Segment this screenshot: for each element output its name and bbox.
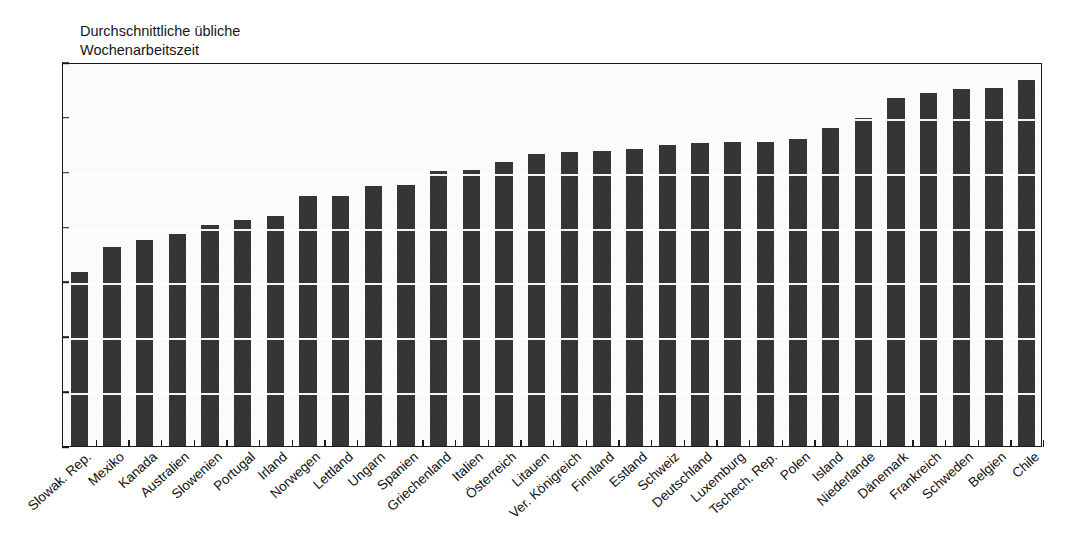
- x-axis-tick: [520, 440, 521, 447]
- x-axis-tick: [1043, 440, 1044, 447]
- y-axis-tick: [62, 282, 69, 284]
- y-axis-tick: [62, 446, 69, 448]
- y-axis-tick: [62, 391, 69, 393]
- bar: [561, 152, 579, 446]
- x-axis-tick: [716, 440, 717, 447]
- bar-series: [63, 64, 1041, 446]
- series-annotation: Durchschnittliche übliche Wochenarbeitsz…: [80, 22, 240, 60]
- bar: [332, 196, 350, 446]
- x-axis-tick: [618, 440, 619, 447]
- x-axis-tick: [324, 440, 325, 447]
- x-axis-tick: [357, 440, 358, 447]
- bar: [953, 89, 971, 446]
- x-axis-tick: [161, 440, 162, 447]
- y-axis-tick: [62, 227, 69, 229]
- plot-area: [62, 63, 1042, 447]
- bar: [430, 171, 448, 446]
- x-axis-tick: [128, 440, 129, 447]
- y-axis-tick: [62, 62, 69, 64]
- x-axis-tick: [292, 440, 293, 447]
- x-axis-tick: [847, 440, 848, 447]
- x-axis-tick: [259, 440, 260, 447]
- x-axis-tick: [1010, 440, 1011, 447]
- bar: [593, 151, 611, 446]
- bar: [365, 186, 383, 446]
- x-axis-tick: [880, 440, 881, 447]
- x-axis-tick: [96, 440, 97, 447]
- x-axis-tick: [194, 440, 195, 447]
- x-axis-tick: [651, 440, 652, 447]
- y-axis-tick: [62, 172, 69, 174]
- bar: [691, 143, 709, 446]
- bar: [855, 118, 873, 446]
- x-axis-label-text: Polen: [777, 449, 813, 483]
- x-axis-tick: [586, 440, 587, 447]
- chart-figure: Durchschnittliche übliche Wochenarbeitsz…: [0, 0, 1065, 554]
- bar: [789, 139, 807, 446]
- bar: [1018, 80, 1036, 446]
- x-axis-tick: [945, 440, 946, 447]
- bar: [659, 145, 677, 446]
- x-axis-tick: [684, 440, 685, 447]
- x-axis-tick: [455, 440, 456, 447]
- x-axis-tick: [782, 440, 783, 447]
- x-axis-label-text: Slowak. Rep.: [25, 449, 94, 513]
- bar: [887, 98, 905, 446]
- bar: [757, 142, 775, 446]
- bar: [528, 154, 546, 446]
- y-axis-tick: [62, 117, 69, 119]
- bar: [201, 225, 219, 446]
- bar: [103, 247, 121, 446]
- bar: [495, 162, 513, 446]
- bar: [985, 88, 1003, 446]
- bar: [71, 272, 89, 446]
- x-axis-tick: [814, 440, 815, 447]
- bar: [463, 170, 481, 446]
- y-axis-tick: [62, 336, 69, 338]
- x-axis-tick: [226, 440, 227, 447]
- x-axis-tick: [488, 440, 489, 447]
- bar: [920, 93, 938, 446]
- x-axis-tick: [390, 440, 391, 447]
- bar: [136, 240, 154, 446]
- x-axis-tick: [978, 440, 979, 447]
- bar: [169, 234, 187, 446]
- bar: [267, 216, 285, 446]
- x-axis-labels: Slowak. Rep.MexikoKanadaAustralienSlowen…: [62, 449, 1042, 554]
- bar: [724, 142, 742, 446]
- bar: [626, 149, 644, 446]
- x-axis-tick: [422, 440, 423, 447]
- x-axis-tick: [912, 440, 913, 447]
- x-axis-tick: [749, 440, 750, 447]
- x-axis-label-text: Chile: [1009, 449, 1042, 481]
- bar: [397, 185, 415, 446]
- bar: [299, 196, 317, 446]
- bar: [234, 220, 252, 446]
- x-axis-tick: [553, 440, 554, 447]
- bar: [822, 128, 840, 446]
- cut-off-heading: [12, 0, 712, 6]
